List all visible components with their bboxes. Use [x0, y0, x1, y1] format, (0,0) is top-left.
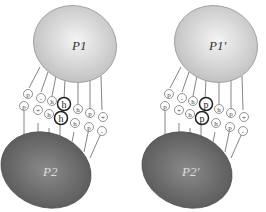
panel-right: P1' P2' p - h p h p + p + h p h p -	[131, 0, 266, 212]
protein-interface-diagram: P1 P2 p - h h h p + p + h h h p -	[0, 0, 266, 212]
residue: +	[34, 106, 43, 115]
svg-text:p: p	[88, 110, 92, 118]
label-p2: P2	[42, 164, 58, 179]
svg-text:p: p	[22, 103, 26, 111]
residue-highlighted: p	[200, 98, 213, 111]
svg-text:h: h	[191, 98, 195, 106]
residue: +	[99, 113, 108, 122]
svg-text:p: p	[204, 99, 209, 110]
residue-highlighted: p	[196, 112, 209, 125]
residue: p	[20, 102, 29, 111]
residue: -	[239, 127, 248, 136]
residue: p	[161, 102, 170, 111]
residue: h	[215, 105, 224, 114]
svg-text:h: h	[76, 106, 80, 114]
svg-text:h: h	[59, 113, 64, 124]
residue: h	[45, 110, 54, 119]
svg-text:+: +	[101, 114, 105, 122]
svg-text:+: +	[242, 114, 246, 122]
svg-text:p: p	[229, 110, 233, 118]
residue: h	[71, 119, 80, 128]
svg-text:p: p	[228, 124, 232, 132]
svg-text:+: +	[36, 107, 40, 115]
residue: +	[175, 106, 184, 115]
svg-text:h: h	[50, 98, 54, 106]
residue: h	[48, 97, 57, 106]
svg-text:p: p	[167, 91, 171, 99]
residue: +	[240, 113, 249, 122]
residue: p	[165, 90, 174, 99]
label-p1: P1	[71, 38, 86, 53]
svg-text:h: h	[73, 120, 77, 128]
residue: p	[227, 109, 236, 118]
svg-text:h: h	[217, 106, 221, 114]
svg-text:h: h	[214, 120, 218, 128]
residue: p	[24, 90, 33, 99]
svg-text:p: p	[26, 91, 30, 99]
residue: p	[226, 123, 235, 132]
svg-text:h: h	[47, 111, 51, 119]
residue: h	[186, 110, 195, 119]
label-p2-prime: P2'	[181, 164, 199, 179]
residue: p	[86, 109, 95, 118]
residue: -	[98, 127, 107, 136]
label-p1-prime: P1'	[208, 38, 226, 53]
svg-text:p: p	[200, 113, 205, 124]
svg-text:p: p	[163, 103, 167, 111]
svg-text:h: h	[62, 99, 67, 110]
residue: h	[212, 119, 221, 128]
residue-highlighted: h	[55, 112, 68, 125]
svg-text:p: p	[87, 124, 91, 132]
panel-left: P1 P2 p - h h h p + p + h h h p -	[0, 0, 127, 212]
residue: p	[85, 123, 94, 132]
residue: -	[37, 94, 46, 103]
svg-text:+: +	[177, 107, 181, 115]
residue-highlighted: h	[58, 98, 71, 111]
residue: h	[74, 105, 83, 114]
svg-text:h: h	[188, 111, 192, 119]
residue: h	[189, 97, 198, 106]
residue: -	[178, 94, 187, 103]
